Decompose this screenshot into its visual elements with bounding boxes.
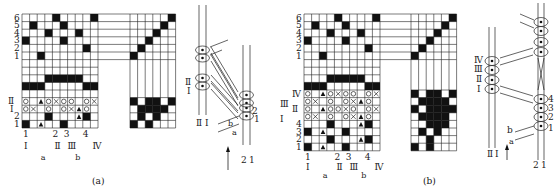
column-number: 2 (52, 129, 58, 139)
cs-label: Ⅲ (474, 64, 483, 74)
cs-label: Ⅰ (495, 149, 499, 159)
column-roman: Ⅱ (336, 162, 342, 172)
column-number: 3 (64, 129, 70, 139)
cs-label: 2 (241, 155, 247, 165)
cross-section-a (196, 5, 254, 170)
cs-label: b (507, 125, 513, 135)
column-roman: Ⅳ (92, 141, 102, 151)
column-number: 4 (83, 129, 89, 139)
column-roman: Ⅱ (54, 141, 60, 151)
row-label: 1 (296, 51, 302, 61)
weft-b-label: b (75, 153, 80, 162)
cs-label: 1 (548, 123, 554, 133)
weft-a-label: a (41, 153, 46, 162)
column-number: 4 (365, 152, 371, 162)
cross-section-b (485, 3, 548, 160)
cs-label: Ⅰ (477, 84, 481, 94)
row-label: 1 (14, 51, 20, 61)
row-label: Ⅱ (292, 104, 298, 114)
weft-b-label: b (361, 171, 366, 180)
cs-label: 1 (249, 155, 255, 165)
column-number: 2 (334, 152, 340, 162)
cs-label: 1 (541, 160, 547, 170)
column-roman: Ⅲ (350, 162, 359, 172)
column-roman: Ⅰ (24, 141, 28, 151)
cs-label: a (232, 128, 237, 137)
caption-a: (a) (92, 176, 104, 186)
column-number: 1 (305, 152, 311, 162)
cs-label: a (509, 137, 514, 146)
cs-label: 2 (548, 112, 554, 122)
column-roman: Ⅳ (374, 162, 384, 172)
column-roman: Ⅲ (68, 141, 77, 151)
cs-label: Ⅰ (187, 86, 191, 96)
row-label: Ⅲ (280, 99, 289, 109)
weave-diagram: 654321ⅡⅠ211234ⅠⅡⅢⅣabⅡⅠⅡⅠ21ba21654321ⅣⅢⅡⅠ… (0, 0, 554, 193)
column-number: 3 (346, 152, 352, 162)
row-label: 1 (14, 119, 20, 129)
weft-a-label: a (323, 171, 328, 180)
row-label: Ⅰ (280, 114, 284, 124)
cs-label: 2 (533, 160, 539, 170)
cs-label: b (228, 119, 233, 128)
caption-b: (b) (423, 176, 436, 186)
cs-label: Ⅱ (196, 118, 202, 128)
row-label: Ⅳ (292, 89, 302, 99)
cs-label: 1 (254, 114, 260, 124)
cs-label: Ⅰ (205, 118, 209, 128)
row-label: 1 (296, 142, 302, 152)
column-roman: Ⅰ (306, 162, 310, 172)
column-number: 1 (23, 129, 29, 139)
cs-label: Ⅱ (487, 149, 493, 159)
cs-label: Ⅱ (476, 74, 482, 84)
